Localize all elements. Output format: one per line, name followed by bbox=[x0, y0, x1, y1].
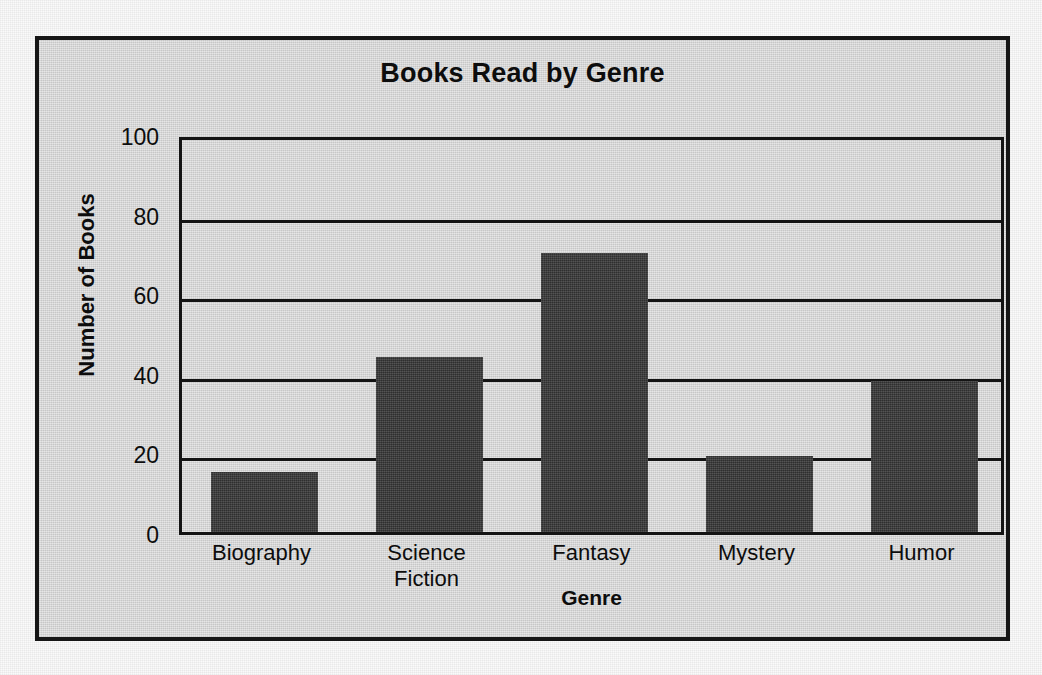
x-axis-title: Genre bbox=[179, 586, 1004, 610]
x-axis-tick-label: Biography bbox=[179, 540, 344, 566]
y-axis-tick-labels: 020406080100 bbox=[39, 137, 171, 535]
page-background: Books Read by Genre Number of Books 0204… bbox=[0, 0, 1042, 675]
y-axis-tick-label: 60 bbox=[133, 285, 159, 308]
bar[interactable] bbox=[211, 472, 317, 532]
chart-title: Books Read by Genre bbox=[39, 58, 1006, 89]
x-axis-tick-label-line: Humor bbox=[839, 540, 1004, 566]
x-axis-tick-label: Humor bbox=[839, 540, 1004, 566]
x-axis-tick-label-line: Biography bbox=[179, 540, 344, 566]
bar[interactable] bbox=[871, 381, 977, 532]
plot-area bbox=[179, 137, 1004, 535]
y-axis-tick-label: 20 bbox=[133, 444, 159, 467]
x-axis-tick-label: Fantasy bbox=[509, 540, 674, 566]
x-axis-tick-label-line: Mystery bbox=[674, 540, 839, 566]
x-axis-tick-label-line: Science bbox=[344, 540, 509, 566]
bar[interactable] bbox=[376, 357, 482, 532]
y-axis-tick-label: 80 bbox=[133, 205, 159, 228]
y-axis-tick-label: 0 bbox=[146, 524, 159, 547]
y-axis-tick-label: 100 bbox=[121, 126, 159, 149]
bar[interactable] bbox=[541, 253, 647, 532]
y-axis-tick-label: 40 bbox=[133, 364, 159, 387]
x-axis-tick-label: Mystery bbox=[674, 540, 839, 566]
chart-frame: Books Read by Genre Number of Books 0204… bbox=[35, 36, 1010, 641]
bars-layer bbox=[182, 140, 1001, 532]
x-axis-tick-label-line: Fantasy bbox=[509, 540, 674, 566]
x-axis-tick-label: ScienceFiction bbox=[344, 540, 509, 591]
bar[interactable] bbox=[706, 456, 812, 532]
